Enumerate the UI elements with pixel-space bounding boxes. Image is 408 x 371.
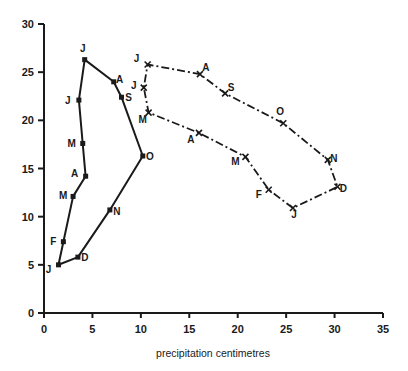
data-point — [280, 120, 286, 126]
month-label: D — [340, 183, 347, 194]
data-point — [83, 174, 88, 179]
data-point — [76, 98, 81, 103]
data-point — [140, 153, 145, 158]
month-label: D — [81, 252, 88, 263]
series-line — [144, 65, 338, 209]
x-tick-label: 25 — [280, 323, 292, 335]
x-tick-label: 15 — [183, 323, 195, 335]
data-point — [80, 141, 85, 146]
x-tick-label: 10 — [135, 323, 147, 335]
month-label: F — [256, 189, 262, 200]
month-label: J — [291, 209, 297, 220]
month-label: J — [131, 80, 137, 91]
x-tick-label: 35 — [377, 323, 389, 335]
month-label: M — [68, 138, 76, 149]
x-axis-title: precipitation centimetres — [156, 347, 270, 359]
month-label: J — [65, 95, 71, 106]
month-label: O — [276, 106, 284, 117]
month-label: A — [202, 62, 209, 73]
month-label: M — [59, 190, 67, 201]
y-tick-label: 10 — [22, 211, 34, 223]
month-label: A — [187, 134, 194, 145]
series-layer: JFMAMJJASONDJFMAMJJASOND — [46, 43, 347, 275]
y-tick-label: 20 — [22, 114, 34, 126]
month-label: J — [46, 264, 52, 275]
series-dash-dot: JFMAMJJASOND — [131, 53, 347, 220]
month-label: A — [116, 74, 123, 85]
data-point — [61, 239, 66, 244]
month-label: S — [228, 82, 235, 93]
x-tick-label: 0 — [41, 323, 47, 335]
month-label: N — [330, 153, 337, 164]
month-label: J — [134, 53, 140, 64]
month-label: N — [113, 206, 120, 217]
data-point — [119, 95, 124, 100]
data-point — [107, 207, 112, 212]
month-label: M — [138, 114, 146, 125]
month-label: F — [50, 236, 56, 247]
data-point — [266, 187, 272, 193]
y-tick-label: 0 — [28, 307, 34, 319]
y-tick-label: 5 — [28, 259, 34, 271]
month-label: A — [71, 168, 78, 179]
data-point — [56, 262, 61, 267]
data-point — [82, 57, 87, 62]
x-tick-label: 20 — [232, 323, 244, 335]
month-label: S — [125, 92, 132, 103]
month-label: O — [146, 151, 154, 162]
data-point — [242, 154, 248, 160]
climograph-chart: 05101520253005101520253035 JFMAMJJASONDJ… — [0, 0, 408, 371]
x-tick-label: 30 — [328, 323, 340, 335]
month-label: M — [231, 156, 239, 167]
month-label: J — [80, 43, 86, 54]
y-tick-label: 15 — [22, 163, 34, 175]
data-point — [71, 194, 76, 199]
x-tick-label: 5 — [89, 323, 95, 335]
y-tick-label: 30 — [22, 18, 34, 30]
data-point — [75, 255, 80, 260]
y-tick-label: 25 — [22, 66, 34, 78]
series-solid: JFMAMJJASOND — [46, 43, 154, 275]
